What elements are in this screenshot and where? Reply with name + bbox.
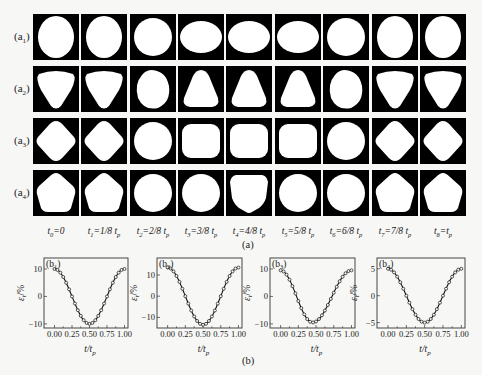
droplet-shape-rounded-square <box>182 124 220 158</box>
row-label-close: ) <box>26 134 30 146</box>
y-tick-label: 0 <box>38 291 42 301</box>
x-axis-label: t/tp <box>419 344 431 357</box>
data-point <box>225 280 228 283</box>
data-point <box>315 320 318 323</box>
droplet-shape-ellipse-tall <box>86 16 122 58</box>
droplet-shape-svg <box>275 14 321 60</box>
data-point <box>103 302 106 305</box>
time-value: =t <box>440 226 449 236</box>
droplet-image <box>178 170 224 216</box>
data-point <box>59 271 62 274</box>
time-period-sub: p <box>117 231 120 238</box>
data-point <box>329 297 332 300</box>
panel-label: (b4) <box>379 259 393 270</box>
y-tick-label: −5 <box>366 318 375 328</box>
data-point <box>432 313 435 316</box>
panel-label: (b1) <box>46 259 60 270</box>
panel-label: (b3) <box>272 259 286 270</box>
time-value: =4/8 t <box>239 226 263 236</box>
droplet-image <box>372 14 418 60</box>
droplet-shape-svg <box>33 66 79 112</box>
droplet-shape-svg <box>33 14 79 60</box>
time-period-sub: p <box>214 231 217 238</box>
droplet-image <box>275 118 321 164</box>
time-value: =3/8 t <box>191 226 215 236</box>
data-point <box>317 318 320 321</box>
droplet-shape-svg <box>226 170 272 216</box>
droplet-image <box>226 118 272 164</box>
row-label: (a3) <box>14 134 34 149</box>
data-point <box>411 308 414 311</box>
droplet-shape-svg <box>130 170 176 216</box>
x-tick-label: 0.50 <box>309 329 324 339</box>
y-tick-label: 0 <box>371 291 375 301</box>
panel-label-close: ) <box>170 259 173 270</box>
droplet-shape-svg <box>81 14 127 60</box>
data-point <box>448 281 451 284</box>
droplet-shape-rounded-square <box>279 124 317 158</box>
data-point <box>65 281 68 284</box>
droplet-image <box>275 170 321 216</box>
droplet-shape-circle <box>134 174 172 212</box>
time-period-sub: p <box>166 231 169 238</box>
droplet-shape-diamond <box>424 121 463 161</box>
data-point <box>108 288 111 291</box>
time-value: =1/8 t <box>94 226 118 236</box>
x-axis-label-sub: p <box>318 349 323 357</box>
droplet-shape-circle <box>134 122 172 160</box>
droplet-shape-circle <box>279 174 317 212</box>
x-tick-label: 0.75 <box>326 329 341 339</box>
data-point <box>117 271 120 274</box>
data-point <box>85 321 88 324</box>
droplet-image <box>33 66 79 112</box>
chart-svg: 0.000.250.500.751.00−505(b4)t/tpεt/% <box>343 250 475 360</box>
droplet-image <box>33 118 79 164</box>
time-label: t8=tp <box>417 226 469 238</box>
data-point <box>393 271 396 274</box>
data-point <box>71 295 74 298</box>
x-axis-label-sub: p <box>205 349 210 357</box>
y-axis-label: εt/% <box>16 285 27 301</box>
droplet-shape-svg <box>130 14 176 60</box>
x-axis-label-sub: p <box>426 349 431 357</box>
y-tick-label: −10 <box>255 319 268 329</box>
droplet-shape-svg <box>372 66 418 112</box>
data-point <box>216 302 219 305</box>
time-label: t4=4/8 tp <box>223 226 275 238</box>
droplet-image <box>178 118 224 164</box>
row-label: (a4) <box>14 186 34 201</box>
data-point <box>190 309 193 312</box>
strain-curve <box>281 270 352 322</box>
droplet-shape-svg <box>226 118 272 164</box>
x-axis-label-sub: p <box>91 349 96 357</box>
time-label: t2=2/8 tp <box>127 226 179 238</box>
data-point <box>297 299 300 302</box>
droplet-image <box>372 170 418 216</box>
time-value: =5/8 t <box>288 226 312 236</box>
data-point <box>181 287 184 290</box>
y-axis-label-unit: /% <box>242 285 252 296</box>
x-tick-label: 1.00 <box>454 329 469 339</box>
droplet-image <box>130 14 176 60</box>
droplet-shape-svg <box>275 66 321 112</box>
droplet-image <box>372 118 418 164</box>
droplet-shape-ellipse-wide <box>180 21 222 53</box>
data-point <box>306 318 309 321</box>
droplet-shape-svg <box>178 118 224 164</box>
data-point <box>199 322 202 325</box>
data-point <box>207 319 210 322</box>
droplet-shape-svg <box>178 170 224 216</box>
droplet-shape-circle <box>327 18 365 56</box>
row-label-main: (a <box>14 82 23 94</box>
x-tick-label: 0.50 <box>196 329 211 339</box>
data-point <box>303 313 306 316</box>
y-axis-label: εt/% <box>242 285 253 301</box>
data-point <box>423 321 426 324</box>
data-point <box>111 281 114 284</box>
data-point <box>88 322 91 325</box>
x-tick-label: 0.25 <box>399 329 414 339</box>
droplet-image <box>178 14 224 60</box>
droplet-shape-svg <box>323 14 369 60</box>
x-tick-label: 0.00 <box>47 329 62 339</box>
droplet-image <box>420 66 466 112</box>
